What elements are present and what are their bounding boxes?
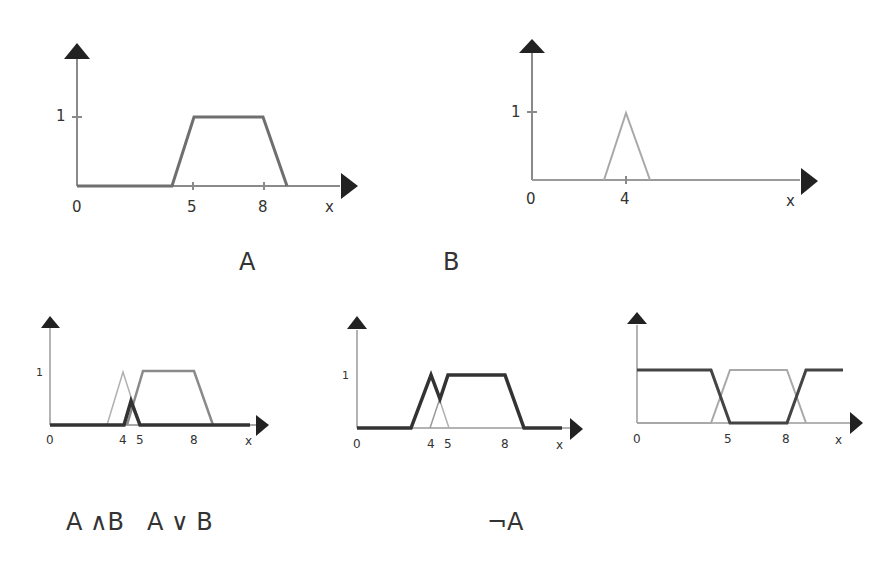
membership-curve-A bbox=[127, 371, 213, 425]
tick-label-0: 0 bbox=[526, 190, 536, 208]
tick-label-8: 8 bbox=[190, 433, 198, 447]
x-axis-label: x bbox=[325, 198, 334, 216]
tick-label-8: 8 bbox=[782, 432, 790, 446]
membership-curve-B bbox=[604, 113, 650, 180]
membership-curve-A bbox=[77, 117, 287, 186]
x-axis-arrow-icon bbox=[801, 168, 818, 195]
tick-label-5: 5 bbox=[724, 432, 732, 446]
x-axis-arrow-icon bbox=[850, 412, 863, 434]
tick-label-0: 0 bbox=[353, 437, 361, 451]
tick-label-0: 0 bbox=[633, 432, 641, 446]
x-axis-arrow-icon bbox=[570, 418, 583, 440]
x-axis-label: x bbox=[835, 433, 842, 447]
tick-label-5: 5 bbox=[187, 198, 197, 216]
y-axis-arrow-icon bbox=[519, 39, 545, 53]
x-axis-arrow-icon bbox=[256, 415, 269, 436]
tick-label-4: 4 bbox=[620, 190, 630, 208]
x-axis-arrow-icon bbox=[341, 173, 358, 199]
chart-B: 0 4 x 1 bbox=[511, 39, 818, 210]
tick-label-4: 4 bbox=[119, 433, 127, 447]
tick-label-0: 0 bbox=[72, 198, 82, 216]
membership-curve-A-or-B bbox=[357, 375, 562, 428]
chart-A-and-B: 0 4 5 8 x 1 bbox=[36, 316, 269, 448]
chart-not-A: 0 5 8 x bbox=[627, 312, 863, 447]
y-axis-arrow-icon bbox=[41, 316, 60, 328]
tick-label-1: 1 bbox=[56, 107, 66, 125]
y-axis-arrow-icon bbox=[627, 312, 647, 324]
tick-label-5: 5 bbox=[136, 433, 144, 447]
tick-label-8: 8 bbox=[258, 198, 268, 216]
tick-label-5: 5 bbox=[444, 437, 452, 451]
fuzzy-set-diagram: 0 5 8 x 1 0 4 x 1 0 4 5 8 x 1 bbox=[0, 0, 892, 563]
x-axis-label: x bbox=[556, 438, 563, 452]
tick-label-1: 1 bbox=[511, 103, 521, 121]
caption-not-A: ¬A bbox=[487, 510, 524, 534]
tick-label-1: 1 bbox=[36, 366, 43, 379]
x-axis-label: x bbox=[245, 434, 252, 448]
chart-A: 0 5 8 x 1 bbox=[56, 43, 358, 216]
chart-A-or-B: 0 4 5 8 x 1 bbox=[342, 316, 583, 452]
tick-label-8: 8 bbox=[501, 437, 509, 451]
x-axis-label: x bbox=[786, 192, 795, 210]
caption-B: B bbox=[443, 250, 459, 274]
tick-label-0: 0 bbox=[46, 433, 54, 447]
membership-curve-not-A bbox=[637, 370, 843, 423]
tick-label-4: 4 bbox=[427, 437, 435, 451]
membership-curve-A-and-B bbox=[50, 401, 250, 425]
caption-A: A bbox=[239, 250, 255, 274]
tick-label-1: 1 bbox=[342, 369, 349, 382]
y-axis-arrow-icon bbox=[64, 43, 90, 59]
y-axis-arrow-icon bbox=[347, 316, 367, 329]
caption-and-or: A ∧B A ∨ B bbox=[66, 510, 213, 534]
